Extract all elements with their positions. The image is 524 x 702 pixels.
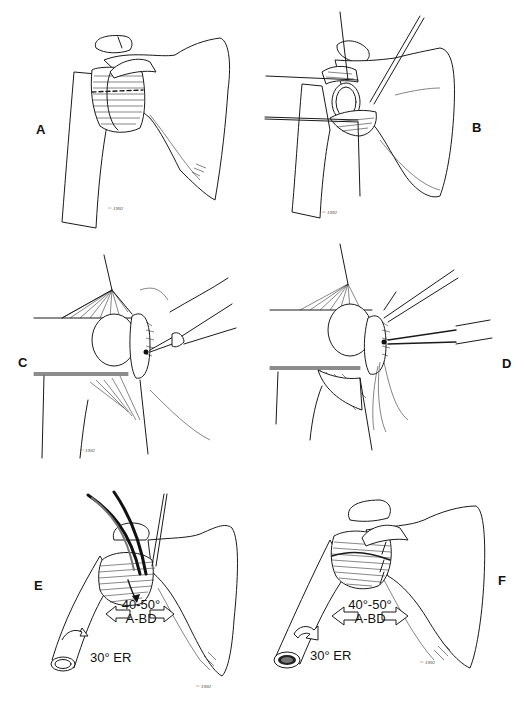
panel-c-drawing bbox=[34, 255, 236, 458]
panel-e-drawing bbox=[51, 492, 238, 676]
artist-signature-f: © 1992 bbox=[420, 660, 435, 665]
panel-label-b: B bbox=[472, 120, 481, 135]
rotation-label-f: 30° ER bbox=[310, 649, 370, 663]
abduction-range-e: 40-50° bbox=[118, 598, 164, 612]
panel-a-drawing bbox=[62, 36, 230, 229]
panel-b-drawing bbox=[265, 12, 454, 218]
panel-label-f: F bbox=[498, 573, 506, 588]
abduction-range-f: 40°-50° bbox=[344, 598, 396, 612]
artist-signature-c: © 1992 bbox=[80, 448, 95, 453]
rotation-label-e: 30° ER bbox=[90, 651, 150, 665]
panel-label-d: D bbox=[502, 356, 511, 371]
artist-signature-e: © 1992 bbox=[196, 684, 211, 689]
abduction-label-f: A-BD bbox=[344, 612, 396, 626]
panel-label-c: C bbox=[18, 355, 27, 370]
panel-label-e: E bbox=[34, 578, 43, 593]
panel-f-drawing bbox=[274, 500, 485, 668]
artist-signature-a: © 1992 bbox=[108, 206, 123, 211]
artist-signature-b: © 1992 bbox=[322, 210, 337, 215]
abduction-label-e: A-BD bbox=[118, 612, 164, 626]
panel-d-drawing bbox=[270, 244, 492, 450]
panel-label-a: A bbox=[36, 122, 45, 137]
surgical-illustration bbox=[0, 0, 524, 702]
